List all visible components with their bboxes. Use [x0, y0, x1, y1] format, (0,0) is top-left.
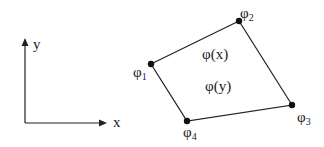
node-2-subscript: 2	[249, 12, 254, 23]
y-axis-arrowhead-icon	[22, 38, 29, 46]
node-1-subscript: 1	[142, 71, 147, 82]
node-3-label: φ3	[297, 110, 311, 127]
interior-label-phi-y: φ(y)	[205, 79, 231, 94]
y-axis-label: y	[33, 37, 41, 52]
node-4-subscript: 4	[192, 131, 197, 142]
node-1-label: φ1	[133, 65, 147, 82]
node-2-symbol: φ	[240, 5, 249, 21]
diagram-canvas	[0, 0, 324, 147]
node-3-symbol: φ	[297, 109, 306, 125]
node-3-dot-icon	[289, 102, 295, 108]
node-2-label: φ2	[240, 6, 254, 23]
x-axis-arrowhead-icon	[99, 120, 107, 127]
interior-label-phi-x: φ(x)	[202, 47, 228, 62]
node-1-symbol: φ	[133, 64, 142, 80]
quadrilateral-element	[151, 21, 292, 121]
x-axis-label: x	[113, 115, 121, 130]
node-4-label: φ4	[183, 125, 197, 142]
node-1-dot-icon	[148, 61, 154, 67]
node-4-symbol: φ	[183, 124, 192, 140]
node-3-subscript: 3	[306, 116, 311, 127]
